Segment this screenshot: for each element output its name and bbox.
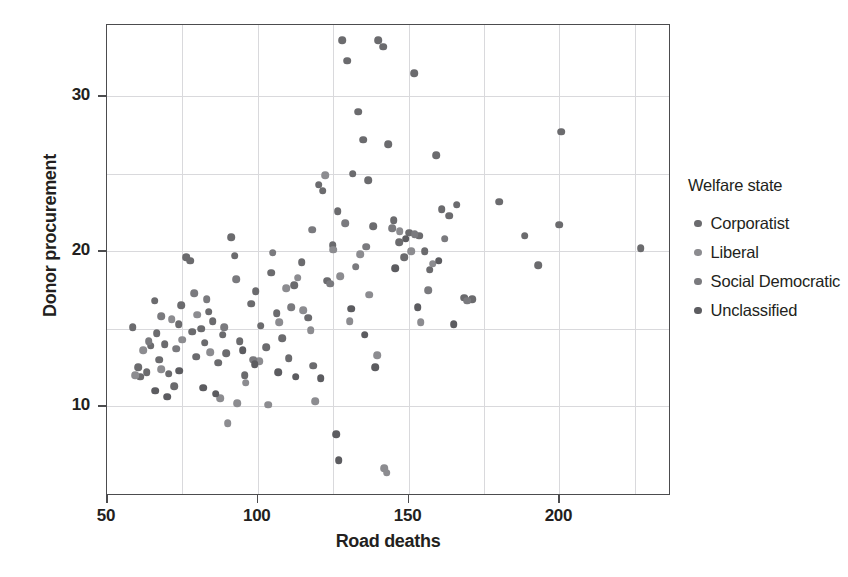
data-point bbox=[194, 311, 202, 319]
data-point bbox=[311, 398, 319, 406]
legend-item-label: Liberal bbox=[711, 243, 759, 262]
data-point bbox=[168, 316, 176, 324]
legend-item-corporatist[interactable]: Corporatist bbox=[688, 209, 846, 238]
legend-dot-icon bbox=[694, 307, 702, 315]
data-point bbox=[307, 326, 315, 334]
data-points-layer bbox=[107, 25, 669, 494]
data-point bbox=[153, 330, 161, 338]
data-point bbox=[390, 216, 398, 224]
data-point bbox=[407, 247, 415, 255]
data-point bbox=[177, 302, 185, 310]
y-tick-label: 10 bbox=[30, 395, 90, 415]
x-tick-label: 50 bbox=[97, 506, 115, 526]
legend-title: Welfare state bbox=[688, 176, 846, 195]
data-point bbox=[242, 379, 250, 387]
data-point bbox=[450, 320, 458, 328]
data-point bbox=[305, 314, 313, 322]
data-point bbox=[410, 69, 418, 77]
data-point bbox=[379, 43, 387, 51]
data-point bbox=[317, 374, 325, 382]
data-point bbox=[179, 336, 187, 344]
legend-item-unclassified[interactable]: Unclassified bbox=[688, 296, 846, 325]
data-point bbox=[236, 337, 244, 345]
data-point bbox=[131, 371, 139, 379]
data-point bbox=[326, 280, 334, 288]
data-point bbox=[363, 243, 371, 251]
x-tick-label: 100 bbox=[243, 506, 270, 526]
data-point bbox=[140, 347, 148, 355]
data-point bbox=[209, 317, 217, 325]
data-point bbox=[383, 469, 391, 477]
data-point bbox=[264, 401, 272, 409]
data-point bbox=[424, 286, 432, 294]
legend-item-label: Corporatist bbox=[711, 214, 790, 233]
data-point bbox=[206, 348, 214, 356]
data-point bbox=[157, 312, 165, 320]
x-tick-mark bbox=[106, 495, 108, 503]
data-point bbox=[357, 251, 365, 259]
data-point bbox=[534, 261, 542, 269]
data-point bbox=[337, 272, 345, 280]
data-point bbox=[157, 365, 165, 373]
data-point bbox=[364, 176, 372, 184]
data-point bbox=[203, 295, 211, 303]
data-point bbox=[283, 285, 291, 293]
plot-area bbox=[106, 24, 670, 495]
data-point bbox=[129, 323, 137, 331]
data-point bbox=[495, 198, 503, 206]
data-point bbox=[414, 303, 422, 311]
legend-dot-icon bbox=[694, 278, 702, 286]
data-point bbox=[521, 232, 529, 240]
data-point bbox=[370, 223, 378, 231]
data-point bbox=[557, 128, 565, 136]
data-point bbox=[262, 343, 270, 351]
data-point bbox=[396, 227, 404, 235]
data-point bbox=[341, 220, 349, 228]
data-point bbox=[360, 136, 368, 144]
data-point bbox=[292, 373, 300, 381]
data-point bbox=[464, 297, 472, 305]
data-point bbox=[338, 37, 346, 45]
legend-items: CorporatistLiberalSocial DemocraticUncla… bbox=[688, 209, 846, 325]
y-tick-mark bbox=[98, 95, 106, 97]
data-point bbox=[269, 249, 277, 257]
data-point bbox=[247, 300, 255, 308]
x-axis-title: Road deaths bbox=[106, 531, 670, 552]
data-point bbox=[298, 258, 306, 266]
data-point bbox=[361, 331, 369, 339]
legend-item-label: Unclassified bbox=[711, 301, 798, 320]
data-point bbox=[192, 353, 200, 361]
data-point bbox=[145, 337, 153, 345]
legend-dot-icon bbox=[694, 249, 702, 257]
data-point bbox=[190, 289, 198, 297]
data-point bbox=[308, 226, 316, 234]
data-point bbox=[435, 257, 443, 265]
data-point bbox=[214, 359, 222, 367]
data-point bbox=[285, 354, 293, 362]
data-point bbox=[275, 368, 283, 376]
data-point bbox=[151, 387, 159, 395]
data-point bbox=[222, 350, 230, 358]
data-point bbox=[268, 269, 276, 277]
data-point bbox=[155, 356, 163, 364]
data-point bbox=[287, 303, 295, 311]
scatter-plot-figure: 50100150200 102030 Road deaths Donor pro… bbox=[0, 0, 848, 577]
data-point bbox=[224, 419, 232, 427]
data-point bbox=[354, 108, 362, 116]
legend-item-liberal[interactable]: Liberal bbox=[688, 238, 846, 267]
data-point bbox=[290, 281, 298, 289]
legend-item-social-democratic[interactable]: Social Democratic bbox=[688, 267, 846, 296]
data-point bbox=[251, 361, 259, 369]
data-point bbox=[231, 252, 239, 260]
data-point bbox=[329, 246, 337, 254]
data-point bbox=[366, 291, 374, 299]
data-point bbox=[143, 368, 151, 376]
y-tick-mark bbox=[98, 405, 106, 407]
data-point bbox=[273, 309, 281, 317]
data-point bbox=[233, 275, 241, 283]
data-point bbox=[321, 171, 329, 179]
data-point bbox=[275, 319, 283, 327]
y-axis-title: Donor procurement bbox=[40, 86, 61, 386]
data-point bbox=[221, 323, 229, 331]
data-point bbox=[175, 320, 183, 328]
